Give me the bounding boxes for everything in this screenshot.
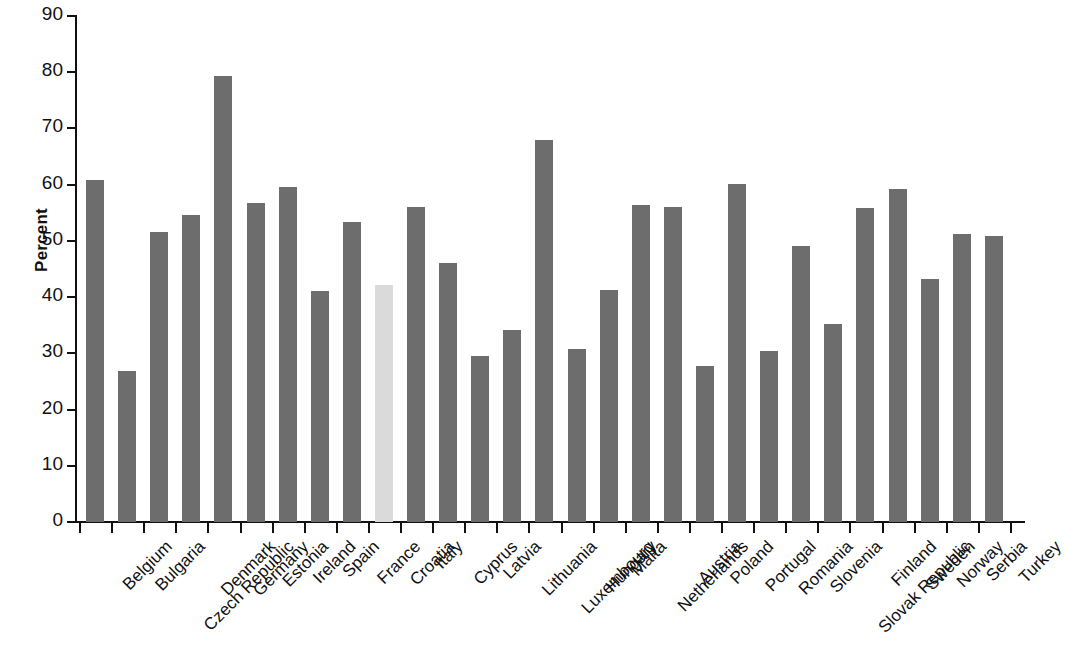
x-axis-tick-mark: [657, 523, 659, 533]
x-axis-tick-mark: [111, 523, 113, 533]
bar: [632, 205, 650, 522]
x-axis-tick-mark: [207, 523, 209, 533]
y-axis-tick-label: 60: [42, 172, 63, 194]
bar: [118, 371, 136, 522]
x-axis-tick-mark: [496, 523, 498, 533]
bar: [182, 215, 200, 522]
x-axis-tick-mark: [368, 523, 370, 533]
bar: [311, 291, 329, 522]
bar: [343, 222, 361, 522]
bar: [407, 207, 425, 522]
bar: [214, 76, 232, 522]
bar: [856, 208, 874, 522]
bar: [889, 189, 907, 522]
bar: [792, 246, 810, 522]
bar: [985, 236, 1003, 522]
x-axis-tick-mark: [817, 523, 819, 533]
bar: [471, 356, 489, 522]
x-axis-tick-label: Malta: [627, 537, 670, 580]
bar: [760, 351, 778, 522]
y-axis-tick-label: 20: [42, 397, 63, 419]
bar: [921, 279, 939, 522]
y-axis-tick-label: 10: [42, 453, 63, 475]
x-axis-tick-mark: [528, 523, 530, 533]
bar: [279, 187, 297, 522]
y-axis-tick: 30: [0, 352, 76, 354]
y-axis-tick-mark: [67, 352, 76, 354]
bar: [150, 232, 168, 522]
y-axis-tick-mark: [67, 240, 76, 242]
x-axis-tick-mark: [785, 523, 787, 533]
y-axis-tick-mark: [67, 521, 76, 523]
x-axis-tick-mark: [978, 523, 980, 533]
x-axis-tick-mark: [721, 523, 723, 533]
x-axis-tick-mark: [432, 523, 434, 533]
y-axis-tick-label: 30: [42, 340, 63, 362]
y-axis-tick: 0: [0, 521, 76, 523]
bar: [439, 263, 457, 522]
y-axis-tick: 10: [0, 465, 76, 467]
x-axis-tick-mark: [882, 523, 884, 533]
x-axis-tick-mark: [175, 523, 177, 533]
x-axis-tick-mark: [914, 523, 916, 533]
bar: [664, 207, 682, 522]
x-axis-tick-mark: [561, 523, 563, 533]
x-axis-tick-mark: [753, 523, 755, 533]
y-axis-tick-mark: [67, 127, 76, 129]
x-axis-tick-mark: [240, 523, 242, 533]
y-axis-tick-mark: [67, 296, 76, 298]
x-axis-tick-mark: [79, 523, 81, 533]
y-axis-tick: 50: [0, 240, 76, 242]
plot-area: [76, 15, 1025, 522]
x-axis-tick-mark: [400, 523, 402, 533]
x-axis-tick-mark: [689, 523, 691, 533]
x-axis-tick-mark: [336, 523, 338, 533]
x-axis-tick-mark: [849, 523, 851, 533]
bar: [86, 180, 104, 522]
x-axis-tick-mark: [946, 523, 948, 533]
bar: [953, 234, 971, 522]
bar: [728, 184, 746, 522]
x-axis-tick-mark: [593, 523, 595, 533]
y-axis-tick-mark: [67, 409, 76, 411]
bar: [696, 366, 714, 522]
x-axis-tick-mark: [304, 523, 306, 533]
bar: [247, 203, 265, 522]
y-axis-tick: 80: [0, 71, 76, 73]
y-axis-tick: 60: [0, 184, 76, 186]
y-axis-tick: 90: [0, 15, 76, 17]
x-axis-tick-mark: [272, 523, 274, 533]
y-axis-tick-mark: [67, 71, 76, 73]
y-axis-tick: 70: [0, 127, 76, 129]
x-axis-tick-mark: [143, 523, 145, 533]
y-axis-tick-mark: [67, 184, 76, 186]
bar: [600, 290, 618, 522]
x-axis-tick-mark: [1010, 523, 1012, 533]
y-axis-tick-label: 50: [42, 228, 63, 250]
bar: [535, 140, 553, 522]
bar: [503, 330, 521, 522]
y-axis-tick-mark: [67, 465, 76, 467]
y-axis-tick: 20: [0, 409, 76, 411]
y-axis-tick-label: 70: [42, 115, 63, 137]
x-axis-tick-mark: [625, 523, 627, 533]
y-axis-tick-label: 0: [52, 509, 63, 531]
bar: [568, 349, 586, 522]
bar: [824, 324, 842, 522]
x-axis-tick-mark: [464, 523, 466, 533]
y-axis-tick-label: 90: [42, 3, 63, 25]
y-axis-tick-label: 40: [42, 284, 63, 306]
y-axis-tick-mark: [67, 15, 76, 17]
y-axis-tick-label: 80: [42, 59, 63, 81]
bar: [375, 285, 393, 522]
y-axis-tick: 40: [0, 296, 76, 298]
